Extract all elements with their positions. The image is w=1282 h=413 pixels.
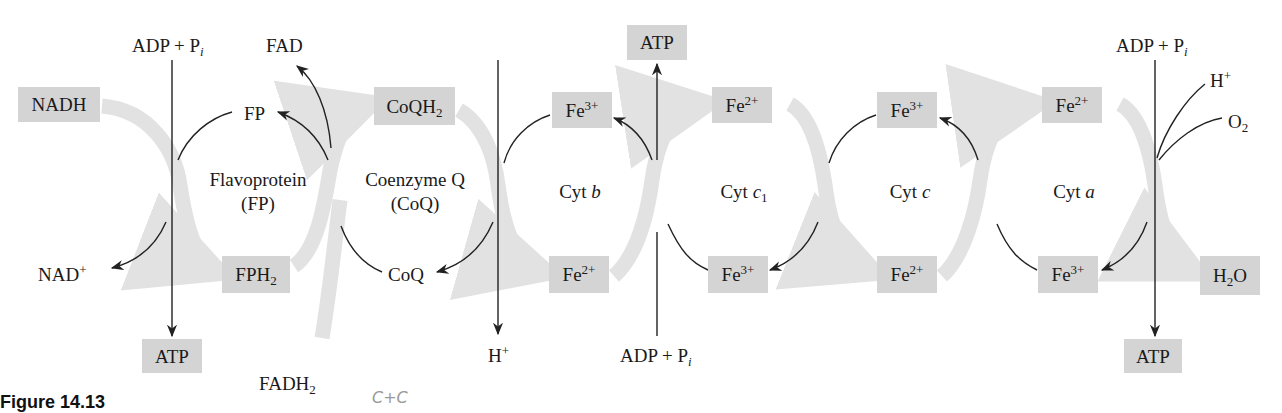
label-nad-plus: NAD+ — [38, 265, 87, 284]
box-fe3-cytc1: Fe3+ — [708, 256, 768, 293]
arrow-to-coq — [437, 222, 493, 272]
fe2-label: Fe2+ — [1056, 96, 1089, 115]
coqh2-label: CoQH2 — [386, 97, 442, 116]
complex-cyt-c: Cyt c — [860, 180, 960, 204]
box-h2o: H2O — [1200, 256, 1260, 295]
box-fe3-cytc: Fe3+ — [877, 92, 937, 128]
arc-to-coq — [341, 226, 382, 272]
arrow-to-fe3-cytc1 — [770, 222, 818, 270]
label-adp-pi-2: ADP + Pi — [620, 346, 692, 365]
label-fp: FP — [244, 104, 265, 123]
label-hplus-2: H+ — [1210, 71, 1231, 90]
line-hplus-2 — [1157, 84, 1205, 158]
arrow-to-fp — [278, 112, 328, 160]
fe3-label: Fe3+ — [566, 101, 599, 120]
box-atp-bottom-left: ATP — [142, 339, 202, 373]
label-adp-pi-3: ADP + Pi — [1116, 36, 1188, 55]
handwritten-note: C+C — [372, 388, 408, 407]
arc-from-fe3-cyta — [997, 224, 1037, 270]
label-fad: FAD — [266, 36, 303, 55]
box-atp-top: ATP — [627, 25, 687, 60]
box-fe2-cytc: Fe2+ — [877, 256, 937, 293]
fe3-label: Fe3+ — [891, 101, 924, 120]
arc-to-fe3-cytb — [504, 115, 550, 163]
complex-cyt-c1: Cyt c1 — [694, 180, 794, 204]
nadh-label: NADH — [32, 95, 87, 114]
atp-label: ATP — [640, 33, 674, 52]
box-atp-bottom-right: ATP — [1124, 339, 1182, 373]
box-fe2-cyta: Fe2+ — [1042, 87, 1102, 123]
arrow-to-fe3-cytc — [940, 118, 978, 160]
box-fe2-cytc1: Fe2+ — [712, 87, 772, 123]
fph2-label: FPH2 — [235, 265, 276, 284]
atp-label: ATP — [1136, 347, 1170, 366]
complex-coenzyme-q: Coenzyme Q(CoQ) — [352, 168, 478, 216]
flow-band-fe2a-to-h2o — [1120, 104, 1196, 272]
complex-cyt-a: Cyt a — [1024, 180, 1124, 204]
arc-from-fe3-cytc1 — [668, 224, 708, 270]
fe2-label: Fe2+ — [891, 265, 924, 284]
box-fph2: FPH2 — [222, 256, 290, 293]
label-o2: O2 — [1228, 112, 1248, 131]
line-o2 — [1159, 118, 1222, 160]
box-fe2-cytb: Fe2+ — [549, 256, 609, 293]
atp-label: ATP — [155, 347, 189, 366]
box-nadh: NADH — [18, 87, 100, 122]
arc-from-fp — [178, 112, 232, 160]
complex-cyt-b: Cyt b — [530, 180, 630, 204]
label-adp-pi-1: ADP + Pi — [132, 36, 204, 55]
box-coqh2: CoQH2 — [374, 87, 455, 125]
label-fadh2: FADH2 — [259, 374, 316, 393]
figure-caption: Figure 14.13 — [0, 392, 105, 413]
h2o-label: H2O — [1213, 266, 1247, 285]
fe3-label: Fe3+ — [722, 265, 755, 284]
box-fe3-cyta: Fe3+ — [1038, 256, 1098, 293]
arc-to-fe3-cytc — [829, 115, 876, 163]
label-coq: CoQ — [388, 265, 424, 284]
box-fe3-cytb: Fe3+ — [552, 92, 612, 128]
arrow-to-nad — [112, 222, 166, 268]
fe2-label: Fe2+ — [726, 96, 759, 115]
arrow-to-fe3-cytb — [614, 118, 652, 160]
fe2-label: Fe2+ — [563, 265, 596, 284]
electron-flow-bands — [102, 104, 1196, 338]
arrow-to-fe3-cyta — [1102, 222, 1147, 270]
complex-flavoprotein: Flavoprotein(FP) — [192, 168, 324, 216]
label-hplus-1: H+ — [488, 346, 509, 365]
fe3-label: Fe3+ — [1052, 265, 1085, 284]
